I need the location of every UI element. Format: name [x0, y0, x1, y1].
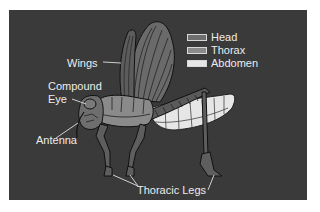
thorax	[97, 95, 154, 127]
label-antenna: Antenna	[36, 134, 77, 146]
grasshopper-illustration	[0, 0, 320, 212]
legend: Head Thorax Abdomen	[187, 31, 258, 70]
label-compound-eye-line2: Eye	[48, 93, 67, 105]
legend-item-head: Head	[187, 31, 258, 43]
legend-swatch-abdomen	[187, 60, 207, 67]
legend-label-head: Head	[211, 31, 237, 43]
legend-swatch-thorax	[187, 47, 207, 54]
thoracic-legs-front	[96, 124, 146, 176]
label-thoracic-legs: Thoracic Legs	[137, 184, 206, 196]
label-wings: Wings	[67, 57, 98, 69]
label-compound-eye-line1: Compound	[48, 80, 102, 92]
legend-item-abdomen: Abdomen	[187, 57, 258, 69]
legend-swatch-head	[187, 34, 207, 41]
wing-rear	[130, 22, 174, 102]
legend-item-thorax: Thorax	[187, 44, 258, 56]
legend-label-thorax: Thorax	[211, 44, 245, 56]
wing-front	[120, 30, 136, 100]
legend-label-abdomen: Abdomen	[211, 57, 258, 69]
